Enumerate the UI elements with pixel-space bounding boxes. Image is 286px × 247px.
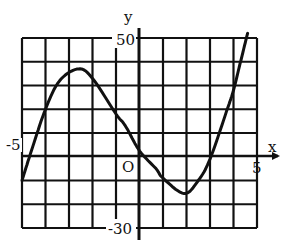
function-graph: y x 50 -30 O -5 5 bbox=[0, 0, 286, 247]
y-min-tick-label: -30 bbox=[108, 220, 132, 238]
x-min-tick-label: -5 bbox=[6, 136, 21, 154]
y-axis-label: y bbox=[123, 8, 133, 26]
origin-label: O bbox=[122, 158, 134, 176]
x-axis-label: x bbox=[268, 138, 277, 156]
x-max-tick-label: 5 bbox=[252, 159, 262, 177]
y-max-tick-label: 50 bbox=[116, 31, 135, 49]
